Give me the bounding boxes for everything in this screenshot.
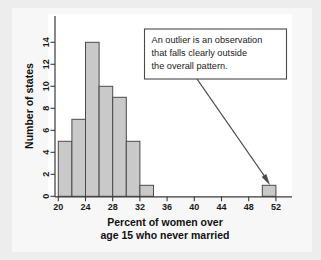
histogram-bar[interactable] xyxy=(126,141,140,196)
pointer-line xyxy=(197,79,267,179)
y-axis-title: Number of states xyxy=(23,63,35,149)
y-tick-label: 0 xyxy=(41,194,51,199)
annotation-line-1: An outlier is an observation xyxy=(152,35,263,45)
y-axis: 0 2 4 6 8 10 12 14 Number of states xyxy=(23,16,55,199)
histogram-bar[interactable] xyxy=(113,97,127,196)
x-axis-title-line2: age 15 who never married xyxy=(101,229,230,241)
x-axis-title-line1: Percent of women over xyxy=(107,216,223,228)
y-tick-label: 8 xyxy=(41,106,51,111)
x-tick-label: 28 xyxy=(108,202,118,212)
histogram-bar[interactable] xyxy=(99,86,113,196)
y-tick-label: 10 xyxy=(41,81,51,91)
y-tick-label: 2 xyxy=(41,172,51,177)
x-tick-label: 24 xyxy=(80,202,90,212)
annotation-line-2: that falls clearly outside xyxy=(152,48,248,58)
x-tick-label: 52 xyxy=(271,202,281,212)
x-tick-label: 32 xyxy=(135,202,145,212)
x-axis: 20 24 28 32 36 40 44 48 52 Percent of wo… xyxy=(53,197,292,241)
y-tick-label: 6 xyxy=(41,128,51,133)
x-tick-label: 20 xyxy=(53,202,63,212)
outlier-annotation: An outlier is an observation that falls … xyxy=(145,29,287,79)
y-tick-label: 14 xyxy=(41,37,51,47)
annotation-line-3: the overall pattern. xyxy=(152,61,228,71)
histogram-bar[interactable] xyxy=(140,185,154,196)
x-tick-label: 48 xyxy=(244,202,254,212)
x-tick-label: 44 xyxy=(216,202,226,212)
pointer-arrowhead xyxy=(262,174,270,184)
y-tick-label: 4 xyxy=(41,150,51,155)
histogram-bar[interactable] xyxy=(58,141,72,196)
x-tick-label: 40 xyxy=(189,202,199,212)
x-tick-label: 36 xyxy=(162,202,172,212)
histogram-chart: 0 2 4 6 8 10 12 14 Number of states 20 2… xyxy=(0,0,321,260)
histogram-bar-outlier[interactable] xyxy=(262,185,276,196)
y-tick-label: 12 xyxy=(41,59,51,69)
histogram-bar[interactable] xyxy=(72,119,86,196)
histogram-bar[interactable] xyxy=(86,42,100,196)
outlier-pointer xyxy=(197,79,270,185)
figure-container: 0 2 4 6 8 10 12 14 Number of states 20 2… xyxy=(0,0,321,260)
